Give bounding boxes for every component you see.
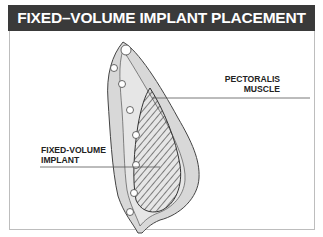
breast-cross-section-illustration <box>0 0 323 237</box>
label-line: MUSCLE <box>206 84 280 94</box>
label-line: PECTORALIS <box>206 74 280 84</box>
fixed-volume-implant-label: FIXED-VOLUME IMPLANT <box>41 145 106 165</box>
label-line: FIXED-VOLUME <box>41 145 106 155</box>
label-line: IMPLANT <box>41 155 106 165</box>
pectoralis-muscle-label: PECTORALIS MUSCLE <box>206 74 280 94</box>
